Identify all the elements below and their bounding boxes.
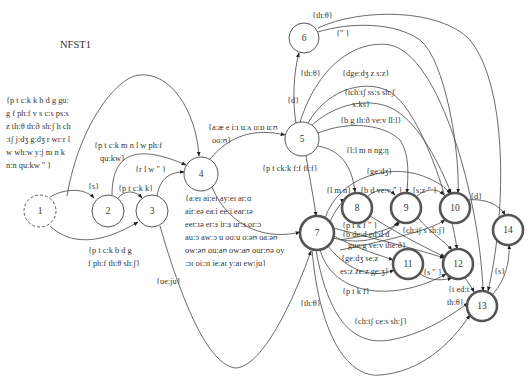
state-5: 5: [285, 122, 319, 156]
edge-5-6: [294, 53, 299, 123]
label-5-9: {b g th:ð ve:v ll:l}: [340, 116, 402, 125]
state-13: 13: [467, 291, 497, 321]
label-5-13: {th:θ}: [300, 69, 321, 78]
label-9-10: {s:z " }: [412, 186, 437, 195]
fst-diagram: NFST1: [0, 0, 530, 389]
label-10-14: {d}: [470, 192, 482, 201]
label-2-4-l0: {p t c:k m n l w ph:f: [94, 141, 162, 150]
edge-1-4: [67, 75, 199, 196]
state-12: 12: [443, 249, 473, 279]
label-7-8: {l m n}: [326, 186, 351, 195]
state-1: 1: [24, 195, 56, 227]
svg-text:11: 11: [403, 259, 412, 269]
svg-text:6: 6: [302, 33, 307, 43]
edge-3-4: [157, 172, 184, 196]
state-10: 10: [440, 193, 470, 223]
label-3-4: {r l w " }: [135, 165, 166, 174]
state-7: 7: [300, 216, 334, 250]
svg-text:7: 7: [315, 228, 320, 238]
label-3-7: {ue:ju}: [156, 277, 181, 286]
label-1-2: {s}: [88, 182, 99, 191]
svg-text:10: 10: [450, 203, 460, 213]
state-6: 6: [289, 23, 319, 53]
label-5-7: {p t ck:k f:f ff:f}: [262, 164, 318, 173]
label-5-6: {d}: [287, 96, 299, 105]
label-1-4-l3: :tʃ j:dʒ g:dʒ r wr:r l: [6, 135, 71, 144]
label-6-10: {" }: [336, 29, 350, 38]
label-12-13-l0: {t ed:t: [448, 285, 470, 294]
label-5-12: {dge:dʒ z s:z}: [342, 69, 390, 78]
label-7-11-l1: {ge:dʒ se:z: [341, 254, 379, 263]
svg-text:13: 13: [477, 301, 487, 311]
svg-text:14: 14: [503, 225, 513, 235]
state-14: 14: [493, 215, 523, 245]
label-1-4-l1: g f ph:f v s c:s ps:s: [6, 109, 69, 118]
label-1-4-l0: {p t c:k k b d g gu:: [6, 96, 69, 105]
state-11: 11: [393, 249, 423, 279]
state-9: 9: [391, 193, 421, 223]
label-7-9-l1: {b de:d ed:d d: [342, 230, 390, 239]
label-1-3-l0: {p t c:k b d g: [88, 246, 133, 255]
label-9-12: {ch:tʃ s sh:ʃ}: [402, 226, 445, 235]
edge-5-9: [318, 126, 408, 193]
label-2-4-l1: qu:kw}: [100, 154, 125, 163]
label-4-7-l1: air:eə ea:i ee:i ear:ɪə: [185, 207, 253, 216]
diagram-title: NFST1: [60, 39, 91, 50]
edges: [50, 14, 509, 375]
label-7-11-l2: es:z ze:z ge:ʒ}: [340, 267, 389, 276]
state-8: 8: [342, 193, 372, 223]
state-4: 4: [184, 157, 218, 191]
edge-1-3: [50, 222, 138, 240]
label-4-7-l0: {a:eɪ ai:eɪ ay:eɪ ar:ɑ: [185, 194, 252, 203]
label-4-5-l1: oo:ʊ}: [212, 136, 231, 145]
label-4-5-l0: {a:æ e i:ɪ u:ʌ o:ɒ u:ʊ: [208, 123, 278, 132]
label-5-8: {l:l m n ng:ŋ: [346, 146, 389, 155]
label-7-13: {ch:tʃ ce:s sh:ʃ}: [354, 317, 407, 326]
svg-text:1: 1: [38, 206, 43, 216]
label-11-12: {s " }: [423, 268, 442, 277]
svg-text:2: 2: [106, 206, 111, 216]
label-1-4-l4: w wh:w y:j m n k: [6, 148, 66, 157]
svg-text:9: 9: [404, 203, 409, 213]
label-8-9: {b d ve:v " }: [360, 186, 403, 195]
label-4-7-l4: ow:əʊ ou:aʊ ow:aʊ our:ʊə oy: [185, 246, 285, 255]
svg-text:12: 12: [453, 259, 463, 269]
svg-text:8: 8: [355, 203, 360, 213]
label-7-10: {ge:dʒ}: [366, 167, 392, 176]
label-4-7-l2: eer:ɪə er:ɜ ir:ɜ ur:ɜ or:ɔ: [185, 220, 261, 229]
label-5-10-l0: {tch:tʃ ss:s sh:ʃ: [344, 88, 395, 97]
label-7-12: {p t k f}: [342, 287, 370, 296]
label-12-13-l1: th:θ}: [447, 298, 464, 307]
state-3: 3: [136, 195, 168, 227]
svg-text:3: 3: [150, 206, 155, 216]
state-2: 2: [92, 195, 124, 227]
edge-7-8: [330, 203, 342, 222]
label-7-13b: {th:θ}: [300, 299, 321, 308]
label-1-4-l5: n:n qu:kw " }: [6, 161, 51, 170]
label-4-7-l5: :ɔɪ oi:ɔɪ ie:aɪ y:aɪ ew:ju}: [185, 259, 266, 268]
label-7-11-l0: gue:g ve:v the:ð}: [348, 241, 406, 250]
label-13-14: {s}: [494, 267, 505, 276]
label-2-3: {p t c:k k}: [118, 184, 153, 193]
label-4-7-l3: au:ɔ aw:ɔ u oo:u o:əʊ oa:əʊ: [185, 233, 278, 242]
edge-1-2: [50, 190, 94, 198]
label-6-13: {th:θ}: [312, 11, 333, 20]
label-1-4-l2: z th:θ th:ð sh:ʃ h ch: [6, 122, 72, 131]
label-5-10-l1: x:ks}: [352, 100, 370, 109]
svg-text:5: 5: [300, 134, 305, 144]
label-1-3-l1: f ph:f th:θ sh:ʃ}: [88, 259, 140, 268]
svg-text:4: 4: [199, 169, 204, 179]
